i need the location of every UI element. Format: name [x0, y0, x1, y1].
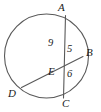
- point-label-a: A: [58, 2, 65, 13]
- point-label-c: C: [62, 98, 69, 109]
- circle-chords-diagram: A B C D E 9 5 6: [0, 0, 101, 112]
- segment-length-ec: 6: [67, 68, 72, 79]
- segment-length-ae: 9: [48, 37, 53, 48]
- segment-length-eb: 5: [67, 43, 72, 54]
- point-label-d: D: [8, 88, 16, 99]
- circle-outline: [5, 14, 89, 98]
- point-label-b: B: [86, 47, 93, 58]
- chord-ac-line: [64, 16, 66, 99]
- point-label-e: E: [48, 66, 55, 77]
